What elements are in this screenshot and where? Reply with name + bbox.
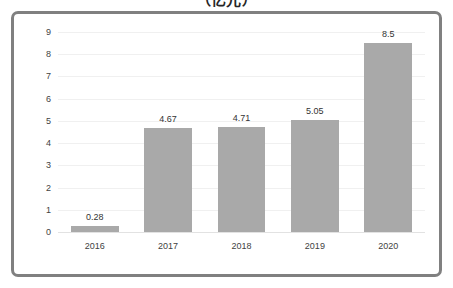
x-axis-category-label: 2016 (57, 242, 133, 251)
bar-group[interactable]: 4.712018 (218, 32, 266, 232)
bar-value-label: 4.71 (218, 114, 266, 123)
x-axis-category-label: 2017 (130, 242, 206, 251)
y-axis-tick-label: 6 (46, 94, 51, 103)
y-axis-tick-label: 7 (46, 72, 51, 81)
bar-group[interactable]: 8.52020 (364, 32, 412, 232)
bar-value-label: 5.05 (291, 107, 339, 116)
bar-group[interactable]: 5.052019 (291, 32, 339, 232)
x-axis-category-label: 2020 (350, 242, 426, 251)
y-axis-tick-label: 2 (46, 183, 51, 192)
bar[interactable] (144, 128, 192, 232)
y-axis-tick-label: 0 (46, 228, 51, 237)
bar-group[interactable]: 4.672017 (144, 32, 192, 232)
bar[interactable] (218, 127, 266, 232)
y-axis-tick-label: 4 (46, 139, 51, 148)
y-axis-tick-label: 8 (46, 50, 51, 59)
bar-series: 0.2820164.6720174.7120185.0520198.52020 (58, 32, 425, 232)
x-axis-category-label: 2019 (277, 242, 353, 251)
y-axis-tick-label: 9 (46, 28, 51, 37)
bar[interactable] (364, 43, 412, 232)
y-axis-tick-label: 1 (46, 205, 51, 214)
gridline (58, 232, 425, 233)
bar[interactable] (291, 120, 339, 232)
chart-frame: 0123456789 0.2820164.6720174.7120185.052… (11, 11, 442, 277)
bar-group[interactable]: 0.282016 (71, 32, 119, 232)
chart-title: （亿元） (196, 0, 257, 8)
x-axis-category-label: 2018 (204, 242, 280, 251)
plot-area: 0123456789 0.2820164.6720174.7120185.052… (58, 32, 425, 232)
bar-value-label: 8.5 (364, 30, 412, 39)
chart-title-strip: （亿元） (0, 0, 453, 8)
y-axis-tick-label: 5 (46, 116, 51, 125)
bar-value-label: 4.67 (144, 115, 192, 124)
y-axis-tick-label: 3 (46, 161, 51, 170)
bar[interactable] (71, 226, 119, 232)
bar-value-label: 0.28 (71, 213, 119, 222)
